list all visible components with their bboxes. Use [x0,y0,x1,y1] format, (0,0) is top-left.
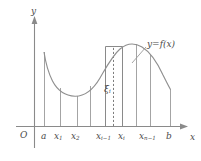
origin-label: O [20,131,27,140]
x-axis-label: x [190,133,195,142]
x-tick-label-xi-minus-1: xi−1 [96,132,111,142]
sample-point-label: ξi [104,85,111,95]
x-axis [16,124,188,130]
x-tick-label-xn-minus-1: xn−1 [139,132,156,142]
x-tick-label-x1: x1 [54,132,63,142]
y-axis [32,16,38,148]
curve-label-leader [132,47,146,63]
x-tick-label-x2: x2 [71,132,80,142]
x-tick-label-a: a [41,132,46,141]
x-tick-label-xi: xi [118,132,125,142]
x-tick-label-b: b [166,132,172,141]
y-axis-arrowhead [32,16,38,24]
curve-equation-label: y=f(x) [147,40,175,49]
y-axis-label: y [31,7,36,16]
riemann-sum-figure: y x O a x1 x2 xi−1 xi xn−1 b ξi y=f(x) [0,0,201,161]
x-axis-arrowhead [180,124,188,130]
